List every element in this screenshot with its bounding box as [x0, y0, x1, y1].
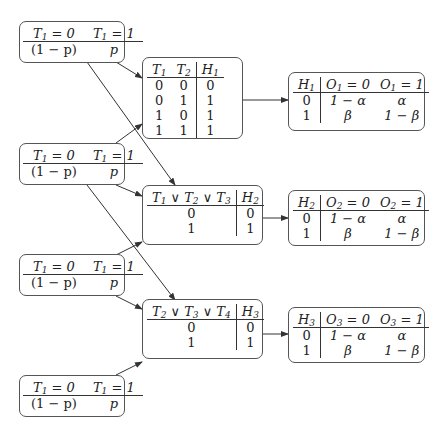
prior-table-1: T1 = 0T1 = 1 (1 − p)p: [23, 26, 143, 57]
prior-value-0: (1 − p): [23, 396, 85, 412]
h1-header-t1: T1: [152, 62, 166, 77]
h1-header-t2: T2: [176, 62, 190, 77]
h2-table: T1 ∨ T2 ∨ T3 H2 00 11: [147, 190, 264, 236]
table-row: 1β1 − β: [293, 226, 429, 241]
prior-box-1: T1 = 0T1 = 1 (1 − p)p: [19, 21, 125, 63]
cell: β: [344, 226, 352, 241]
cell: 0: [171, 78, 196, 94]
cell: 1 − β: [384, 108, 419, 123]
cell: 0: [171, 108, 196, 123]
edge-prior1-h1: [116, 62, 142, 78]
prior-box-4: T1 = 0T1 = 1 (1 − p)p: [19, 375, 125, 417]
cell: 0: [293, 328, 321, 344]
o2-header-0: O2 = 0: [326, 195, 370, 210]
cell: 0: [147, 320, 236, 336]
cell: 0: [293, 93, 321, 109]
table-row: 01 − αα: [293, 93, 429, 109]
cell: 1 − α: [330, 93, 366, 108]
prior-header-t1-0: T1 = 0: [33, 259, 75, 274]
h1-table-box: T1 T2 H1 000 011 101 111: [142, 57, 243, 139]
h1-table: T1 T2 H1 000 011 101 111: [147, 62, 224, 138]
prior-header-t1-0: T1 = 0: [33, 26, 75, 41]
table-row: 11: [147, 335, 264, 350]
cell: β: [344, 343, 352, 358]
table-row: 000: [147, 78, 224, 94]
o2-table: H2 O2 = 0 O2 = 1 01 − αα 1β1 − β: [293, 195, 429, 241]
o1-header-1: O1 = 1: [380, 77, 424, 92]
edge-prior3-h3: [116, 296, 142, 309]
prior-value-0: (1 − p): [23, 275, 85, 291]
h2-header-h2: H2: [242, 190, 259, 205]
cell: 1: [293, 108, 321, 123]
prior-value-1: p: [110, 164, 118, 179]
edge-prior3-h2: [116, 242, 142, 255]
cell: 1 − α: [330, 328, 366, 343]
cell: 1: [171, 123, 196, 138]
o3-table: H3 O3 = 0 O3 = 1 01 − αα 1β1 − β: [293, 312, 429, 358]
table-row: 101: [147, 108, 224, 123]
cell: 1: [196, 108, 224, 123]
table-row: 00: [147, 320, 264, 336]
edge-prior2-h2: [116, 185, 142, 196]
table-row: 11: [147, 221, 264, 236]
table-row: 111: [147, 123, 224, 138]
h3-table-box: T2 ∨ T3 ∨ T4 H3 00 11: [142, 299, 263, 359]
o3-header-0: O3 = 0: [326, 312, 370, 327]
cell: 0: [293, 211, 321, 227]
prior-header-t1-0: T1 = 0: [33, 380, 75, 395]
cell: 1: [147, 335, 236, 350]
cell: 1: [293, 226, 321, 241]
o2-table-box: H2 O2 = 0 O2 = 1 01 − αα 1β1 − β: [288, 190, 425, 246]
prior-table-3: T1 = 0T1 = 1 (1 − p)p: [23, 259, 143, 290]
prior-value-1: p: [110, 396, 118, 411]
cell: 0: [147, 93, 171, 108]
prior-value-1: p: [110, 275, 118, 290]
prior-header-t1-0: T1 = 0: [33, 148, 75, 163]
h2-header-or: T1 ∨ T2 ∨ T3: [152, 190, 231, 205]
cell: 1: [236, 221, 264, 236]
table-row: 1β1 − β: [293, 343, 429, 358]
cell: 0: [147, 206, 236, 222]
cell: 1 − β: [384, 226, 419, 241]
cell: 1 − β: [384, 343, 419, 358]
h3-table: T2 ∨ T3 ∨ T4 H3 00 11: [147, 304, 264, 350]
o2-header-1: O2 = 1: [380, 195, 424, 210]
cell: 1: [196, 93, 224, 108]
table-row: 00: [147, 206, 264, 222]
cell: 1: [147, 108, 171, 123]
h3-header-or: T2 ∨ T3 ∨ T4: [152, 304, 231, 319]
h2-table-box: T1 ∨ T2 ∨ T3 H2 00 11: [142, 185, 263, 245]
prior-box-3: T1 = 0T1 = 1 (1 − p)p: [19, 254, 125, 296]
cell: α: [397, 328, 406, 343]
table-row: 011: [147, 93, 224, 108]
o3-table-box: H3 O3 = 0 O3 = 1 01 − αα 1β1 − β: [288, 307, 425, 363]
prior-value-0: (1 − p): [23, 42, 85, 58]
cell: 1: [293, 343, 321, 358]
o1-table-box: H1 O1 = 0 O1 = 1 01 − αα 1β1 − β: [288, 72, 425, 131]
cell: 1 − α: [330, 211, 366, 226]
cell: 1: [236, 335, 264, 350]
o3-header-1: O3 = 1: [380, 312, 424, 327]
cell: 0: [236, 320, 264, 336]
prior-header-t1-1: T1 = 1: [93, 259, 135, 274]
o1-header-h: H1: [298, 77, 315, 92]
cell: 0: [236, 206, 264, 222]
cell: 1: [196, 123, 224, 138]
table-row: 01 − αα: [293, 328, 429, 344]
o2-header-h: H2: [298, 195, 315, 210]
prior-header-t1-1: T1 = 1: [93, 148, 135, 163]
prior-header-t1-1: T1 = 1: [93, 380, 135, 395]
cell: 0: [147, 78, 171, 94]
h1-header-h1: H1: [202, 62, 219, 77]
prior-table-4: T1 = 0T1 = 1 (1 − p)p: [23, 380, 143, 411]
o3-header-h: H3: [298, 312, 315, 327]
cell: α: [397, 93, 406, 108]
prior-value-0: (1 − p): [23, 164, 85, 180]
cell: α: [397, 211, 406, 226]
table-row: 01 − αα: [293, 211, 429, 227]
prior-header-t1-1: T1 = 1: [93, 26, 135, 41]
cell: β: [344, 108, 352, 123]
cell: 1: [147, 221, 236, 236]
cell: 1: [171, 93, 196, 108]
prior-value-1: p: [110, 42, 118, 57]
